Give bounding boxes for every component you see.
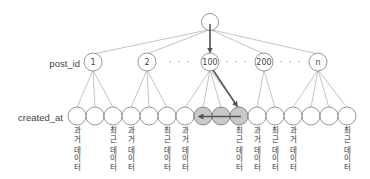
leaf-label-char: 터 — [254, 163, 261, 172]
edge-200-to-leaf — [264, 70, 275, 108]
leaf-label-char: 거 — [128, 135, 135, 144]
leaf-label-char: 터 — [236, 163, 243, 172]
leaf-label-char: 거 — [290, 135, 297, 144]
leaf-label-char: 최 — [164, 125, 171, 135]
created-at-node — [320, 107, 338, 125]
row-label-created-at: created_at — [18, 112, 63, 123]
post-id-node-label: 100 — [202, 58, 217, 67]
leaf-label-char: 거 — [74, 135, 81, 144]
leaf-label-char: 터 — [290, 163, 297, 172]
edge-1-to-leaf — [77, 70, 93, 108]
leaf-label-char: 거 — [254, 135, 261, 144]
leaf-label-vertical: 과거데이터 — [290, 126, 297, 172]
leaf-label-char: 이 — [182, 153, 189, 163]
leaf-label-vertical: 과거데이터 — [74, 126, 81, 172]
post-id-node-label: n — [315, 58, 320, 67]
post-id-node-n: n — [309, 53, 327, 71]
edge-root-to-200 — [210, 30, 264, 55]
leaf-labels: 과거데이터최근데이터과거데이터최근데이터과거데이터최근데이터과거데이터최근데이터… — [74, 125, 351, 172]
post-id-node-1: 1 — [84, 53, 102, 71]
leaf-label-char: 터 — [74, 163, 81, 172]
created-at-node — [68, 107, 86, 125]
leaf-label-char: 이 — [254, 153, 261, 163]
leaf-label-char: 최 — [344, 125, 351, 135]
leaf-label-char: 터 — [110, 163, 117, 172]
post-id-node-2: 2 — [138, 53, 156, 71]
leaf-label-char: 터 — [344, 163, 351, 172]
post-id-node-label: 1 — [90, 58, 95, 67]
leaf-label-char: 터 — [164, 163, 171, 172]
created-at-node — [302, 107, 320, 125]
leaf-edges — [77, 70, 347, 108]
edge-n-to-leaf — [318, 70, 329, 108]
leaf-label-vertical: 최근데이터 — [272, 125, 279, 172]
edge-2-to-leaf — [147, 70, 149, 108]
search-path-arrows — [199, 24, 241, 117]
edge-1-to-leaf — [93, 70, 95, 108]
created-at-node — [248, 107, 266, 125]
row-label-post-id: post_id — [49, 58, 80, 69]
ellipsis: · · · — [280, 58, 303, 67]
created-at-node — [176, 107, 194, 125]
post-id-node-label: 2 — [144, 58, 149, 67]
leaf-label-char: 근 — [236, 135, 243, 144]
created-at-node — [86, 107, 104, 125]
leaf-label-char: 이 — [272, 153, 279, 163]
index-tree-diagram: 12100200n · · ·· · ·· · · 과거데이터최근데이터과거데이… — [0, 0, 370, 179]
leaf-label-vertical: 최근데이터 — [110, 125, 117, 172]
leaf-label-vertical: 최근데이터 — [164, 125, 171, 172]
leaf-label-char: 근 — [110, 135, 117, 144]
edge-2-to-leaf — [147, 70, 167, 108]
leaf-label-vertical: 최근데이터 — [344, 125, 351, 172]
leaf-label-char: 터 — [182, 163, 189, 172]
edge-root-to-2 — [147, 30, 210, 55]
leaf-label-vertical: 최근데이터 — [236, 125, 243, 172]
edge-100-to-leaf — [210, 70, 221, 108]
leaf-label-char: 이 — [164, 153, 171, 163]
created-at-node — [338, 107, 356, 125]
arrow-100-to-latest-leaf — [213, 70, 237, 106]
leaf-label-char: 이 — [290, 153, 297, 163]
ellipsis: · · · — [226, 58, 249, 67]
leaf-label-char: 이 — [74, 153, 81, 163]
edge-1-to-leaf — [93, 70, 113, 108]
ellipsis-group: · · ·· · ·· · · — [169, 58, 303, 67]
edge-root-to-n — [210, 30, 318, 55]
leaf-label-char: 최 — [110, 125, 117, 135]
leaf-label-vertical: 과거데이터 — [128, 126, 135, 172]
leaf-label-char: 근 — [164, 135, 171, 144]
created-at-node — [158, 107, 176, 125]
leaf-label-vertical: 과거데이터 — [254, 126, 261, 172]
leaf-label-char: 이 — [110, 153, 117, 163]
leaf-label-char: 최 — [272, 125, 279, 135]
leaf-label-char: 이 — [236, 153, 243, 163]
edge-n-to-leaf — [318, 70, 347, 108]
leaf-label-char: 근 — [272, 135, 279, 144]
post-id-node-100: 100 — [201, 53, 219, 71]
leaf-label-char: 최 — [236, 125, 243, 135]
leaf-label-char: 터 — [128, 163, 135, 172]
root-edges — [93, 30, 318, 55]
edge-2-to-leaf — [131, 70, 147, 108]
leaf-label-char: 거 — [182, 135, 189, 144]
created-at-node — [104, 107, 122, 125]
edge-200-to-leaf — [257, 70, 264, 108]
post-id-node-label: 200 — [256, 58, 271, 67]
leaf-label-char: 이 — [128, 153, 135, 163]
ellipsis: · · · — [169, 58, 192, 67]
created-at-node — [284, 107, 302, 125]
leaf-label-char: 근 — [344, 135, 351, 144]
post-id-node-200: 200 — [255, 53, 273, 71]
leaf-label-vertical: 과거데이터 — [182, 126, 189, 172]
leaf-label-char: 이 — [344, 153, 351, 163]
created-at-node — [122, 107, 140, 125]
created-at-node — [266, 107, 284, 125]
leaf-label-char: 터 — [272, 163, 279, 172]
created-at-node — [140, 107, 158, 125]
edge-root-to-1 — [93, 30, 210, 55]
